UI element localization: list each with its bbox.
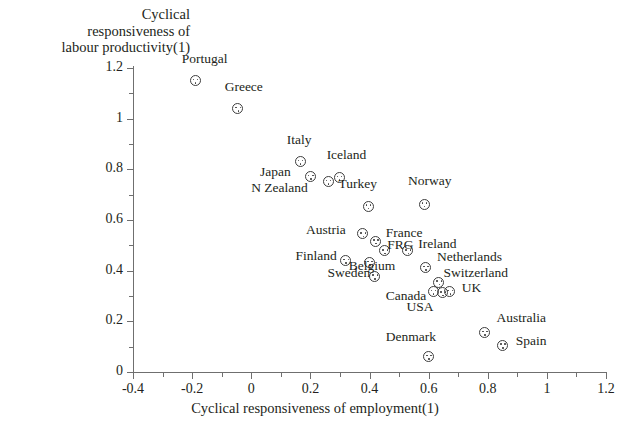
data-point-label: UK — [462, 281, 482, 295]
x-tick-label: 0.8 — [479, 381, 497, 397]
y-tick-minor — [129, 347, 133, 348]
y-tick — [127, 68, 133, 69]
x-tick — [310, 373, 311, 379]
y-axis-title: Cyclical responsiveness of labour produc… — [0, 6, 190, 56]
y-tick-label: 1.2 — [106, 59, 124, 75]
data-point — [323, 176, 334, 187]
y-tick-minor — [129, 144, 133, 145]
x-tick-label: 0.4 — [361, 381, 379, 397]
data-point — [190, 75, 201, 86]
data-point — [357, 228, 368, 239]
y-tick — [127, 119, 133, 120]
data-point — [370, 236, 381, 247]
data-point — [363, 201, 374, 212]
x-tick — [133, 373, 134, 379]
x-tick — [606, 373, 607, 379]
data-point-label: Finland — [296, 249, 337, 263]
data-point — [420, 262, 431, 273]
x-tick-minor — [163, 373, 164, 377]
data-point-label: Spain — [516, 334, 547, 348]
y-axis-line — [133, 66, 134, 373]
x-tick-label: -0.2 — [181, 381, 203, 397]
data-point-label: Australia — [497, 311, 547, 325]
data-point-label: Switzerland — [443, 266, 507, 280]
data-point-label: Denmark — [386, 330, 436, 344]
y-tick — [127, 169, 133, 170]
data-point-label: Netherlands — [437, 250, 502, 264]
data-point-label: Japan — [260, 165, 291, 179]
x-tick — [370, 373, 371, 379]
x-tick-label: -0.4 — [122, 381, 144, 397]
x-tick — [192, 373, 193, 379]
y-tick — [127, 271, 133, 272]
data-point — [419, 199, 430, 210]
x-tick-minor — [222, 373, 223, 377]
data-point — [497, 340, 508, 351]
x-tick-minor — [576, 373, 577, 377]
data-point-label: Greece — [225, 80, 263, 94]
x-tick — [429, 373, 430, 379]
data-point-label: Sweden — [328, 266, 371, 280]
data-point-label: Turkey — [338, 177, 377, 191]
data-point-label: Italy — [287, 133, 312, 147]
y-tick-label: 0.4 — [106, 262, 124, 278]
data-point-label: Norway — [408, 174, 452, 188]
y-tick — [127, 321, 133, 322]
x-tick-minor — [281, 373, 282, 377]
x-tick — [488, 373, 489, 379]
data-point — [295, 156, 306, 167]
scatter-chart: Cyclical responsiveness of labour produc… — [0, 0, 630, 432]
data-point-label: Iceland — [327, 148, 367, 162]
x-tick — [547, 373, 548, 379]
y-tick-label: 0.6 — [106, 211, 124, 227]
x-tick-label: 0.2 — [302, 381, 320, 397]
data-point — [369, 271, 380, 282]
data-point-label: Austria — [306, 223, 346, 237]
data-point-label: N Zealand — [251, 181, 308, 195]
y-tick-label: 0 — [116, 363, 123, 379]
data-point-label: Portugal — [182, 52, 228, 66]
data-point — [423, 351, 434, 362]
x-tick-label: 0.6 — [420, 381, 438, 397]
y-tick-label: 1 — [116, 110, 123, 126]
data-point — [232, 103, 243, 114]
x-tick — [251, 373, 252, 379]
y-tick-minor — [129, 93, 133, 94]
y-tick-label: 0.8 — [106, 160, 124, 176]
x-tick-minor — [340, 373, 341, 377]
data-point — [402, 245, 413, 256]
y-tick-label: 0.2 — [106, 312, 124, 328]
data-point — [444, 286, 455, 297]
x-tick-label: 1.2 — [597, 381, 615, 397]
x-tick-minor — [399, 373, 400, 377]
x-axis-title: Cyclical responsiveness of employment(1) — [0, 400, 630, 417]
x-tick-label: 0 — [248, 381, 255, 397]
data-point-label: USA — [406, 300, 433, 314]
x-tick-label: 1 — [543, 381, 550, 397]
y-tick-minor — [129, 296, 133, 297]
x-tick-minor — [458, 373, 459, 377]
x-tick-minor — [517, 373, 518, 377]
y-tick-minor — [129, 195, 133, 196]
data-point — [479, 327, 490, 338]
y-tick — [127, 220, 133, 221]
y-tick-minor — [129, 245, 133, 246]
